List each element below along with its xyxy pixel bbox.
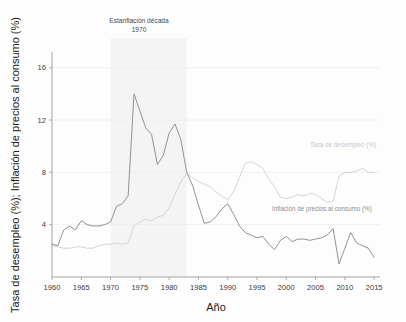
- stagflation-annotation-line2: 1970: [132, 26, 147, 33]
- x-tick-label: 1970: [102, 283, 119, 292]
- x-tick-label: 1975: [131, 283, 148, 292]
- figure-background: [0, 0, 406, 322]
- x-tick-label: 1980: [161, 283, 178, 292]
- x-tick-label: 1960: [44, 283, 61, 292]
- y-tick-label: 12: [38, 116, 46, 125]
- x-axis-title: Año: [206, 301, 226, 313]
- x-tick-label: 1985: [190, 283, 207, 292]
- x-tick-label: 1965: [73, 283, 90, 292]
- x-tick-label: 2015: [366, 283, 383, 292]
- x-tick-label: 1995: [249, 283, 266, 292]
- line-chart: 481216 196019651970197519801985199019952…: [0, 0, 406, 322]
- series-label-inflation: Inflación de precios al consumo (%): [272, 205, 372, 213]
- x-tick-label: 2010: [336, 283, 353, 292]
- x-tick-label: 1990: [219, 283, 236, 292]
- y-tick-label: 8: [42, 168, 46, 177]
- y-axis-title: Tasa de desempleo (%); Inflación de prec…: [9, 17, 21, 313]
- y-tick-label: 4: [42, 220, 46, 229]
- stagflation-annotation-line1: Estanflación década: [109, 17, 169, 24]
- stagflation-shaded-band: [111, 38, 187, 277]
- x-tick-label: 2005: [307, 283, 324, 292]
- y-tick-label: 16: [38, 63, 46, 72]
- series-label-unemployment: Tasa de desempleo (%): [310, 141, 376, 149]
- chart-figure: 481216 196019651970197519801985199019952…: [0, 0, 406, 322]
- x-tick-label: 2000: [278, 283, 295, 292]
